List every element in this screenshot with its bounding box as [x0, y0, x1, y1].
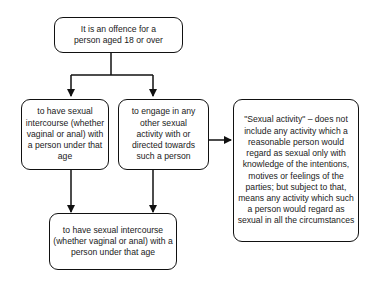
node-other-activity: to engage in any other sexual activity w…	[118, 99, 209, 170]
node-other-activity-text: to engage in any other sexual activity w…	[122, 106, 205, 162]
node-root-text: It is an offence for a person aged 18 or…	[58, 24, 179, 46]
node-intercourse-text: to have sexual intercourse (whether vagi…	[25, 106, 105, 162]
node-intercourse: to have sexual intercourse (whether vagi…	[21, 99, 109, 170]
node-definition: "Sexual activity" – does not include any…	[233, 99, 359, 242]
node-bottom: to have sexual intercourse (whether vagi…	[49, 213, 177, 270]
node-bottom-text: to have sexual intercourse (whether vagi…	[53, 225, 173, 259]
node-definition-text: "Sexual activity" – does not include any…	[237, 114, 355, 226]
node-root: It is an offence for a person aged 18 or…	[54, 17, 183, 53]
